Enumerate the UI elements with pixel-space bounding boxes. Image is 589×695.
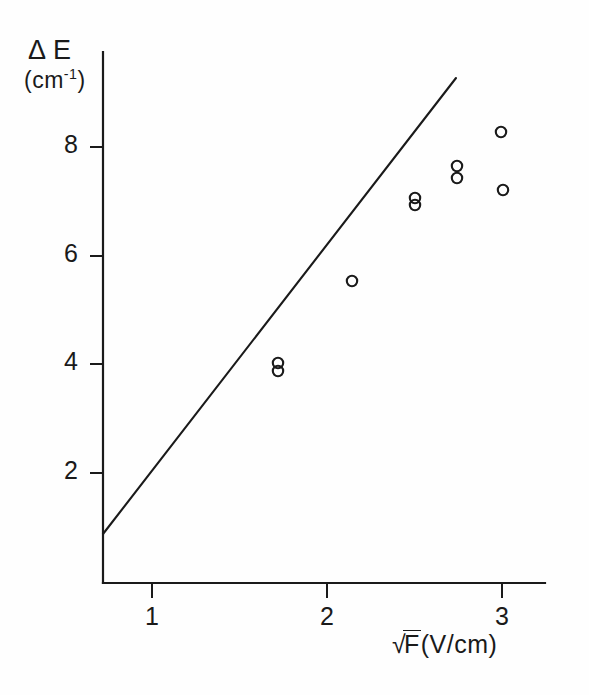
y-axis-unit-exponent: -1 — [64, 66, 78, 82]
y-axis-title-unit: (cm-1) — [24, 67, 86, 92]
fit-line — [103, 78, 456, 534]
y-axis-title-symbol: Δ E — [28, 35, 72, 65]
y-tick-label-6: 6 — [48, 239, 78, 268]
data-point — [452, 173, 462, 183]
y-axis-unit-suffix: ) — [78, 67, 86, 93]
y-axis-unit-prefix: (cm — [24, 67, 64, 93]
data-point — [496, 127, 506, 137]
y-axis-title: Δ E (cm-1) — [28, 36, 86, 92]
data-point — [452, 161, 462, 171]
data-point — [347, 276, 357, 286]
x-axis-unit: (V/cm) — [421, 630, 498, 658]
data-point — [498, 185, 508, 195]
radical-sign-icon: √ — [392, 632, 406, 657]
x-tick-marks — [152, 583, 502, 598]
plot-area — [0, 0, 589, 695]
x-tick-label-3: 3 — [487, 602, 517, 631]
y-tick-marks — [90, 147, 103, 473]
sqrt-group: √F — [392, 630, 421, 659]
figure-canvas: Δ E (cm-1) √F(V/cm) 2 4 6 8 1 2 3 — [0, 0, 589, 695]
x-axis-title: √F(V/cm) — [392, 630, 497, 659]
x-tick-label-1: 1 — [137, 602, 167, 631]
y-tick-label-4: 4 — [48, 347, 78, 376]
y-tick-label-8: 8 — [48, 130, 78, 159]
y-tick-label-2: 2 — [48, 456, 78, 485]
data-point — [410, 200, 420, 210]
x-tick-label-2: 2 — [312, 602, 342, 631]
